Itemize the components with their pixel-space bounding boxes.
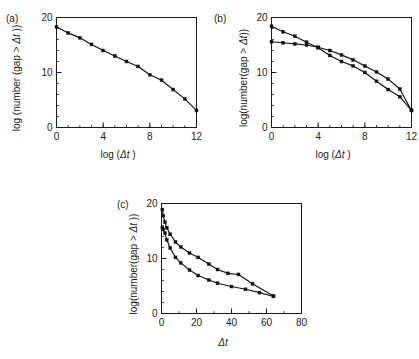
panel-b-xtick-2: 8 xyxy=(362,131,368,142)
panel-a-ytick-2: 20 xyxy=(41,12,53,23)
panel-b-series-0-point-10 xyxy=(387,88,390,91)
panel-c-series-0-point-1 xyxy=(162,214,165,217)
panel-c-series-0-point-4 xyxy=(169,233,172,236)
panel-c-plot: 02040608001020 xyxy=(146,198,307,328)
panel-c-series-1-point-4 xyxy=(169,247,172,250)
panel-b-series-0-point-8 xyxy=(363,71,366,74)
panel-a-ytick-1: 10 xyxy=(41,67,53,78)
panel-c-frame xyxy=(162,204,302,314)
panel-c-series-1-point-8 xyxy=(197,274,200,277)
panel-c-series-1-point-5 xyxy=(174,256,177,259)
svg-text:log (Δt ): log (Δt ) xyxy=(315,149,350,160)
panel-c-series-0-point-5 xyxy=(174,241,177,244)
panel-a-xtick-3: 12 xyxy=(191,131,203,142)
panel-b-xtick-0: 0 xyxy=(269,131,275,142)
panel-b-ytick-0: 0 xyxy=(262,122,268,133)
panel-c-series-1-point-1 xyxy=(162,228,165,231)
panel-b-series-1-point-4 xyxy=(317,46,320,49)
svg-text:log(number(gap > Δt )): log(number(gap > Δt )) xyxy=(128,214,139,315)
panel-b-plot: 0481201020 xyxy=(256,12,417,142)
svg-text:Δt: Δt xyxy=(217,337,229,348)
panel-b-xtick-1: 4 xyxy=(315,131,321,142)
panel-c-xtick-3: 60 xyxy=(261,317,273,328)
panel-a-series-0-point-10 xyxy=(172,88,175,91)
panel-a-axis-marks xyxy=(57,18,197,128)
panel-b-series-0-point-3 xyxy=(305,41,308,44)
panel-a: (a) log (number (gap > Δt )) log (Δt ) 0… xyxy=(0,0,210,180)
svg-text:log (Δt ): log (Δt ) xyxy=(100,149,135,160)
panel-c-series-0-point-6 xyxy=(179,245,182,248)
panel-a-series-0-point-11 xyxy=(183,97,186,100)
svg-text:log (number (gap > Δt )): log (number (gap > Δt )) xyxy=(11,25,22,132)
panel-c-series-1-point-3 xyxy=(165,238,168,241)
panel-c-xtick-4: 80 xyxy=(296,317,308,328)
panel-b-series-0-point-7 xyxy=(352,64,355,67)
panel-b-series-layer xyxy=(270,25,413,112)
panel-b-series-1-point-12 xyxy=(410,109,413,112)
panel-a-svg: (a) log (number (gap > Δt )) log (Δt ) 0… xyxy=(0,0,210,180)
panel-b-yaxis-title: log(number(gap > Δt)) xyxy=(238,29,249,127)
panel-b-series-0-point-9 xyxy=(375,80,378,83)
panel-a-series-0-point-2 xyxy=(78,36,81,39)
panel-a-series-0-point-0 xyxy=(55,25,58,28)
panel-a-series-0-point-7 xyxy=(137,65,140,68)
panel-b-series-0-line xyxy=(272,26,412,110)
panel-a-series-0-point-1 xyxy=(67,31,70,34)
panel-c-xtick-2: 40 xyxy=(226,317,238,328)
panel-b-series-0-point-1 xyxy=(282,30,285,33)
panel-c-yaxis-title: log(number(gap > Δt )) xyxy=(128,214,139,315)
panel-b-ytick-2: 20 xyxy=(256,12,268,23)
panel-b-series-0-point-5 xyxy=(328,54,331,57)
panel-c-series-0-point-8 xyxy=(197,256,200,259)
panel-a-yaxis-title: log (number (gap > Δt )) xyxy=(11,25,22,132)
panel-b-frame xyxy=(272,18,412,128)
panel-c-series-1-point-9 xyxy=(207,278,210,281)
panel-b-svg: (b) log(number(gap > Δt)) log (Δt ) 0481… xyxy=(205,0,419,180)
panel-b-series-1-point-1 xyxy=(282,41,285,44)
panel-c-series-0-point-2 xyxy=(164,221,167,224)
panel-b: (b) log(number(gap > Δt)) log (Δt ) 0481… xyxy=(205,0,419,180)
panel-c: (c) log(number(gap > Δt )) Δt 0204060800… xyxy=(95,180,345,359)
panel-c-ytick-1: 10 xyxy=(146,253,158,264)
panel-a-series-0-point-9 xyxy=(160,79,163,82)
panel-b-series-1-line xyxy=(272,42,412,111)
panel-c-xaxis-title: Δt xyxy=(217,337,229,348)
panel-b-series-1-point-7 xyxy=(352,58,355,61)
panel-c-label: (c) xyxy=(117,199,129,210)
panel-b-xaxis-title: log (Δt ) xyxy=(315,149,350,160)
panel-b-series-0-point-11 xyxy=(398,95,401,98)
panel-b-series-1-point-6 xyxy=(340,53,343,56)
panel-a-label: (a) xyxy=(6,13,18,24)
panel-a-ytick-0: 0 xyxy=(47,122,53,133)
panel-b-series-1-point-2 xyxy=(293,42,296,45)
svg-text:log(number(gap > Δt)): log(number(gap > Δt)) xyxy=(238,29,249,127)
panel-b-series-0-point-6 xyxy=(340,60,343,63)
panel-c-xtick-1: 20 xyxy=(191,317,203,328)
panel-c-series-1-point-13 xyxy=(258,291,261,294)
panel-a-series-0-point-3 xyxy=(90,43,93,46)
panel-a-xtick-1: 4 xyxy=(100,131,106,142)
panel-a-xtick-2: 8 xyxy=(147,131,153,142)
panel-c-series-1-point-6 xyxy=(179,261,182,264)
panel-c-series-0-point-0 xyxy=(161,208,164,211)
panel-a-series-0-point-4 xyxy=(102,49,105,52)
panel-c-series-1-point-2 xyxy=(164,232,167,235)
panel-c-series-1-point-12 xyxy=(244,288,247,291)
panel-b-series-1-point-5 xyxy=(328,49,331,52)
panel-b-series-1-point-9 xyxy=(375,70,378,73)
panel-b-series-0-point-2 xyxy=(293,35,296,38)
panel-a-xaxis-title: log (Δt ) xyxy=(100,149,135,160)
panel-c-series-0-point-10 xyxy=(216,268,219,271)
panel-c-series-1-point-7 xyxy=(188,269,191,272)
panel-a-series-0-point-5 xyxy=(113,55,116,58)
panel-c-series-0-point-13 xyxy=(251,282,254,285)
figure-root: (a) log (number (gap > Δt )) log (Δt ) 0… xyxy=(0,0,419,359)
panel-a-plot: 0481201020 xyxy=(41,12,202,142)
panel-b-series-1-point-8 xyxy=(363,64,366,67)
panel-c-series-0-point-3 xyxy=(165,226,168,229)
panel-c-axis-labels: 02040608001020 xyxy=(146,198,307,328)
panel-c-ytick-2: 20 xyxy=(146,198,158,209)
panel-c-series-1-point-14 xyxy=(272,295,275,298)
panel-c-series-1-point-11 xyxy=(230,285,233,288)
panel-c-series-layer xyxy=(161,208,275,298)
